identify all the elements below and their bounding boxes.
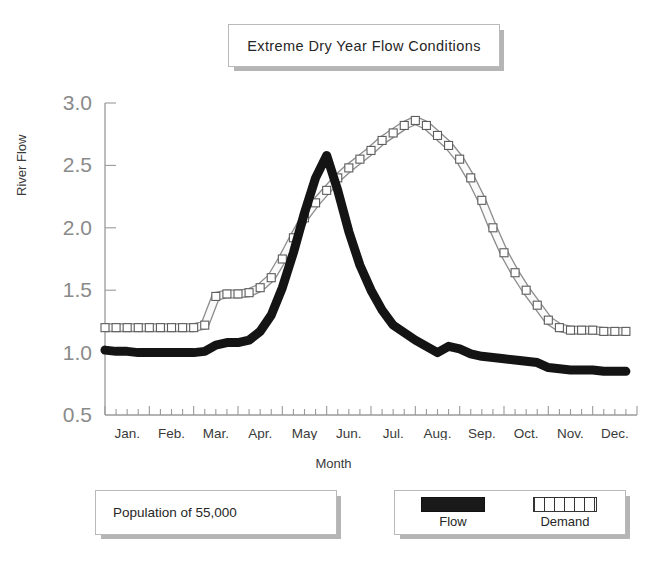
svg-text:Apr.: Apr.	[248, 426, 272, 440]
svg-text:Jan.: Jan.	[114, 426, 140, 440]
y-axis-title: River Flow	[14, 135, 29, 196]
svg-text:Aug.: Aug.	[424, 426, 452, 440]
chart-series	[101, 116, 630, 371]
chart-x-tick-labels: Jan.Feb.Mar.Apr.MayJun.Jul.Aug.Sep.Oct.N…	[114, 426, 628, 440]
population-label: Population of 55,000	[96, 505, 237, 520]
svg-text:Feb.: Feb.	[158, 426, 185, 440]
legend-label-flow: Flow	[439, 514, 466, 529]
legend-swatch-flow-icon	[421, 497, 485, 512]
chart-plot-area: Jan.Feb.Mar.Apr.MayJun.Jul.Aug.Sep.Oct.N…	[0, 80, 667, 440]
legend-item-demand: Demand	[517, 497, 613, 529]
legend-label-demand: Demand	[540, 514, 589, 529]
svg-text:Mar.: Mar.	[203, 426, 229, 440]
svg-text:1.5: 1.5	[63, 278, 92, 301]
svg-text:Jul.: Jul.	[383, 426, 404, 440]
svg-text:1.0: 1.0	[63, 341, 92, 364]
population-box: Population of 55,000	[95, 490, 337, 535]
svg-text:3.0: 3.0	[63, 91, 92, 114]
x-axis-title: Month	[0, 456, 667, 471]
page-title: Extreme Dry Year Flow Conditions	[247, 38, 481, 54]
svg-text:Jun.: Jun.	[336, 426, 362, 440]
legend-swatch-demand-icon	[533, 497, 597, 512]
svg-text:Sep.: Sep.	[468, 426, 496, 440]
svg-text:2.0: 2.0	[63, 216, 92, 239]
chart-y-tick-labels: 0.51.01.52.02.53.0	[63, 91, 92, 426]
legend-item-flow: Flow	[405, 497, 501, 529]
svg-text:2.5: 2.5	[63, 153, 92, 176]
chart-svg: Jan.Feb.Mar.Apr.MayJun.Jul.Aug.Sep.Oct.N…	[0, 80, 667, 440]
svg-text:May: May	[292, 426, 318, 440]
svg-text:0.5: 0.5	[63, 403, 92, 426]
svg-text:Dec.: Dec.	[601, 426, 629, 440]
chart-legend-box: Flow Demand	[394, 490, 626, 535]
chart-title-box: Extreme Dry Year Flow Conditions	[228, 24, 500, 67]
svg-text:Oct.: Oct.	[514, 426, 539, 440]
svg-text:Nov.: Nov.	[557, 426, 584, 440]
